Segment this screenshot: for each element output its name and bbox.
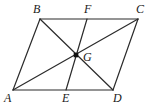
vertex-label-d: D (113, 92, 122, 104)
point-label-g: G (83, 51, 92, 63)
figure-canvas (0, 0, 154, 107)
point-label-f: F (84, 3, 91, 15)
vertex-label-a: A (4, 92, 11, 104)
point-label-e: E (62, 92, 69, 104)
points-group (74, 53, 79, 58)
marked-point-g (74, 53, 79, 58)
vertex-label-b: B (33, 3, 40, 15)
geometry-figure: A B C D E F G (0, 0, 154, 107)
side-CD (113, 19, 138, 90)
side-AB (13, 19, 40, 90)
vertex-label-c: C (136, 3, 144, 15)
